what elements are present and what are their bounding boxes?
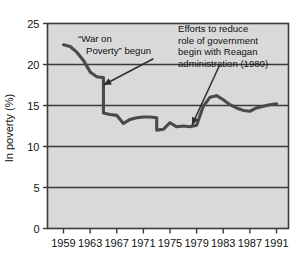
y-axis-title: In poverty (%) (3, 94, 15, 162)
x-tick-label-1971: 1971 (131, 237, 155, 249)
annotation-reagan-efforts-line-3: administration (1980) (178, 58, 268, 69)
y-tick-label-20: 20 (27, 59, 39, 71)
y-tick-label-15: 15 (27, 100, 39, 112)
x-axis: 195919631967197119751979198319871991 (51, 229, 288, 249)
x-tick-label-1963: 1963 (78, 237, 102, 249)
x-tick-label-1983: 1983 (211, 237, 235, 249)
y-tick-label-0: 0 (33, 223, 39, 235)
annotation-war-on-poverty-line-1: Poverty” begun (86, 45, 151, 56)
y-tick-label-10: 10 (27, 141, 39, 153)
y-tick-label-5: 5 (33, 182, 39, 194)
x-tick-label-1975: 1975 (158, 237, 182, 249)
x-tick-label-1991: 1991 (264, 237, 288, 249)
annotation-reagan-efforts-line-1: role of government (178, 35, 258, 46)
annotation-war-on-poverty-line-0: “War on (78, 33, 112, 44)
x-tick-label-1979: 1979 (184, 237, 208, 249)
x-tick-label-1959: 1959 (51, 237, 75, 249)
x-tick-label-1967: 1967 (105, 237, 129, 249)
y-tick-label-25: 25 (27, 18, 39, 30)
annotation-reagan-efforts-line-2: begin with Reagan (178, 46, 257, 57)
y-axis: 0510152025 (27, 18, 47, 235)
annotation-reagan-efforts-line-0: Efforts to reduce (178, 23, 248, 34)
poverty-rate-chart: 0510152025In poverty (%)1959196319671971… (0, 0, 304, 266)
x-tick-label-1987: 1987 (238, 237, 262, 249)
